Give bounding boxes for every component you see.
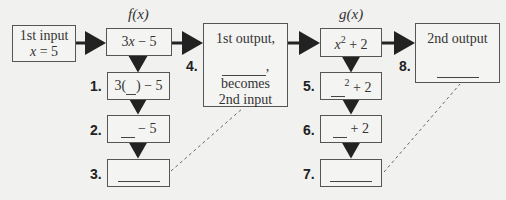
first-input-value: x = 5 [30, 44, 58, 60]
step-6-number: 6. [303, 122, 315, 138]
second-output-box[interactable]: 2nd output ______ [415, 23, 500, 83]
g-expression-box: x2 + 2 [320, 28, 382, 57]
first-input-box: 1st input x = 5 [12, 25, 76, 62]
step-8-number: 8. [399, 58, 411, 74]
step-7-number: 7. [303, 166, 315, 182]
step-2-number: 2. [90, 122, 102, 138]
step-5-number: 5. [303, 78, 315, 94]
f-label: f(x) [128, 6, 149, 23]
step-5-blank[interactable]: __ [331, 80, 345, 97]
g-expression: x2 + 2 [334, 32, 367, 53]
step-4-number: 4. [186, 58, 198, 74]
step-1-number: 1. [90, 78, 102, 94]
step-8-blank[interactable]: ______ [437, 61, 479, 78]
step-3-blank[interactable]: ______ [118, 165, 160, 182]
first-input-label: 1st input [20, 28, 69, 44]
f-expression: 3x − 5 [121, 34, 156, 50]
step-3-box[interactable]: ______ [107, 159, 170, 187]
step-7-blank[interactable]: ______ [330, 165, 372, 182]
step-2-box[interactable]: __ − 5 [107, 115, 170, 143]
step-1-blank[interactable]: __ [126, 78, 136, 95]
step-2-blank[interactable]: __ [121, 121, 135, 138]
step-7-box[interactable]: ______ [320, 159, 382, 187]
step-4-blank[interactable]: ______ [222, 59, 266, 76]
g-label: g(x) [339, 6, 363, 23]
step-6-box[interactable]: __ + 2 [320, 115, 382, 143]
step-3-number: 3. [90, 166, 102, 182]
step-1-box[interactable]: 3(__) − 5 [107, 72, 170, 100]
f-expression-box: 3x − 5 [106, 28, 172, 56]
first-output-box[interactable]: 1st output, ______, becomes 2nd input [203, 23, 288, 107]
step-5-box[interactable]: __2 + 2 [320, 72, 382, 100]
step-6-blank[interactable]: __ [333, 121, 347, 138]
